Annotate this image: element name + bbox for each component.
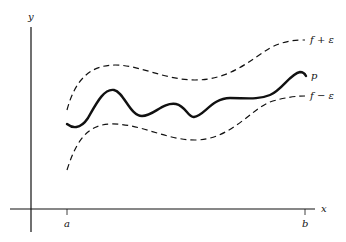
polynomial-label: p: [311, 70, 318, 81]
x-axis-label: x: [321, 203, 327, 214]
tick-label-a: a: [64, 218, 70, 229]
lower-bound-curve: [67, 96, 305, 170]
upper-bound-label: f + ε: [309, 34, 334, 45]
polynomial-curve: [67, 72, 306, 127]
approximation-diagram: y x a b f + ε f − ε p: [0, 0, 346, 242]
lower-bound-label: f − ε: [309, 90, 334, 101]
y-axis-label: y: [27, 11, 34, 22]
tick-label-b: b: [302, 218, 308, 229]
upper-bound-curve: [67, 40, 305, 110]
